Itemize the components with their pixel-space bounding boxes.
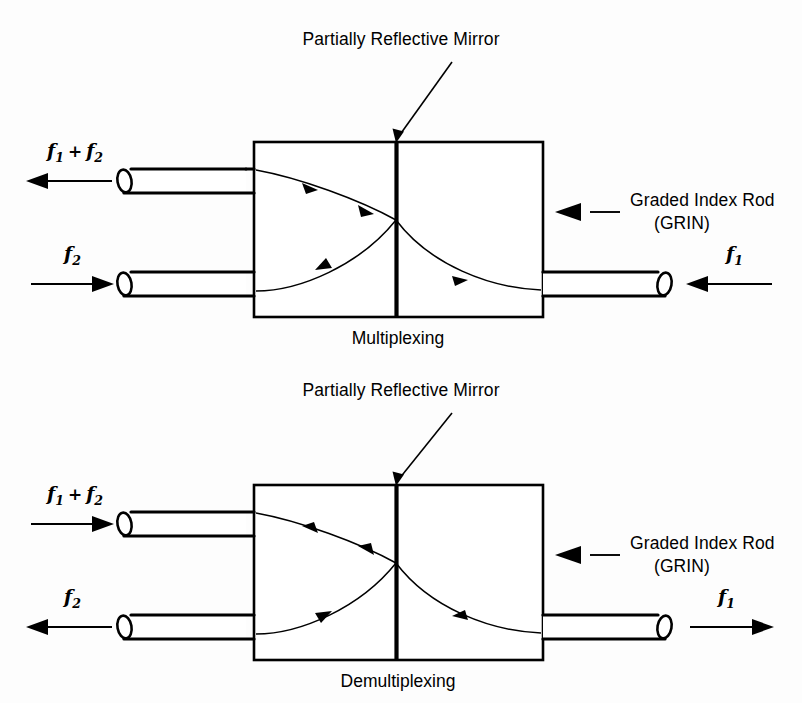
caption-multiplexing: Multiplexing	[352, 328, 444, 348]
signal-op-1: +	[68, 484, 82, 504]
signal-f-sub-1: 1	[55, 493, 64, 508]
svg-text:f1: f1	[724, 242, 743, 268]
flow-arrow-bottom-left-demux	[26, 619, 112, 635]
signal-f-sub: 2	[71, 596, 81, 611]
grin-callout-demux: Graded Index Rod (GRIN)	[555, 533, 775, 576]
mirror-label-mux: Partially Reflective Mirror	[302, 29, 499, 49]
grin-label-line1-demux: Graded Index Rod	[630, 533, 775, 553]
signal-f-sub: 1	[726, 596, 735, 611]
signal-op-1: +	[68, 141, 82, 161]
wdm-grin-diagram: Partially Reflective Mirror	[0, 0, 802, 703]
signal-f-sub: 1	[734, 253, 743, 268]
demultiplexing-diagram: Partially Reflective Mirror	[26, 380, 775, 691]
figure-root: Partially Reflective Mirror	[0, 0, 802, 703]
fiber-top-left-demux	[116, 511, 254, 536]
svg-text:f1+f2: f1+f2	[45, 139, 103, 165]
flow-arrow-top-left-demux	[31, 516, 114, 532]
mirror-label-demux: Partially Reflective Mirror	[302, 380, 499, 400]
caption-demultiplexing: Demultiplexing	[341, 671, 456, 691]
multiplexing-diagram: Partially Reflective Mirror	[26, 29, 775, 348]
svg-text:f2: f2	[62, 242, 81, 268]
signal-label-right-mux: f1	[724, 242, 743, 268]
flow-arrow-right-demux	[690, 619, 774, 635]
signal-label-top-left-demux: f1+f2	[45, 482, 103, 508]
signal-label-bottom-left-demux: f2	[62, 585, 81, 611]
signal-f-sub-2: 2	[93, 493, 103, 508]
signal-f-sub-2: 2	[93, 150, 103, 165]
mirror-leader-line-mux	[399, 62, 452, 136]
mirror-leader-line-demux	[399, 413, 452, 479]
signal-f-sub-1: 1	[55, 150, 64, 165]
flow-arrow-bottom-left-mux	[31, 276, 114, 292]
signal-f-sub: 2	[71, 253, 81, 268]
fiber-right-mux	[543, 271, 673, 296]
svg-text:f2: f2	[62, 585, 81, 611]
signal-label-top-left-mux: f1+f2	[45, 139, 103, 165]
signal-label-right-demux: f1	[716, 585, 735, 611]
svg-text:f1: f1	[716, 585, 735, 611]
grin-label-line2-mux: (GRIN)	[654, 213, 710, 233]
flow-arrow-top-left-mux	[26, 173, 112, 189]
grin-label-line2-demux: (GRIN)	[654, 556, 710, 576]
fiber-top-left-mux	[116, 168, 254, 193]
flow-arrow-right-mux	[686, 276, 772, 292]
grin-label-line1-mux: Graded Index Rod	[630, 190, 775, 210]
grin-callout-mux: Graded Index Rod (GRIN)	[555, 190, 775, 233]
fiber-right-demux	[543, 614, 673, 639]
fiber-bottom-left-mux	[116, 271, 254, 296]
fiber-bottom-left-demux	[116, 614, 254, 639]
svg-text:f1+f2: f1+f2	[45, 482, 103, 508]
signal-label-bottom-left-mux: f2	[62, 242, 81, 268]
